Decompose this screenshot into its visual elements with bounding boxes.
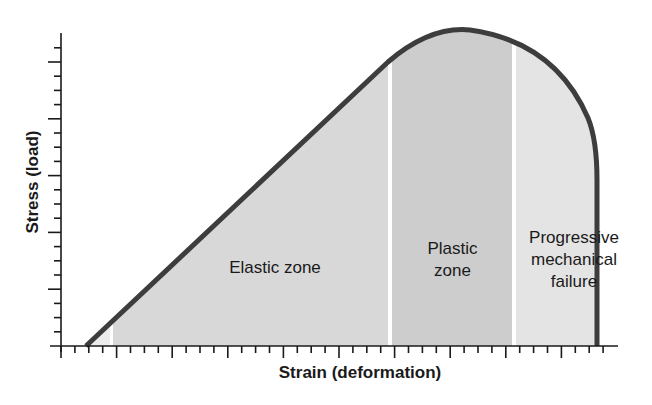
failure-zone-label-line: Progressive bbox=[514, 227, 634, 249]
elastic-zone-fill bbox=[112, 0, 389, 346]
plastic-zone-fill bbox=[389, 0, 513, 346]
zone-divider bbox=[110, 0, 113, 346]
failure-zone-label-line: mechanical bbox=[514, 249, 634, 271]
x-axis-title: Strain (deformation) bbox=[230, 363, 490, 383]
elastic-zone-label: Elastic zone bbox=[205, 257, 345, 279]
zone-divider bbox=[388, 0, 392, 346]
failure-zone-label: Progressive mechanical failure bbox=[514, 227, 634, 293]
zone-divider bbox=[512, 0, 516, 346]
x-axis bbox=[50, 346, 618, 358]
y-axis bbox=[48, 33, 61, 352]
plastic-zone-label-line: zone bbox=[395, 260, 510, 282]
y-axis-title: Stress (load) bbox=[23, 117, 43, 247]
failure-zone-label-line: failure bbox=[514, 271, 634, 293]
failure-zone-fill bbox=[513, 0, 603, 346]
pre-elastic-fill bbox=[60, 0, 112, 346]
stress-strain-diagram bbox=[0, 0, 652, 405]
plastic-zone-label-line: Plastic bbox=[395, 238, 510, 260]
plastic-zone-label: Plastic zone bbox=[395, 238, 510, 282]
